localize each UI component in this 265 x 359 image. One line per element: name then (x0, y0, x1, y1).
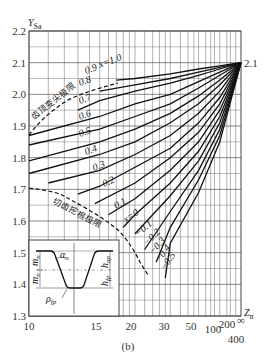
svg-text:30: 30 (159, 320, 171, 332)
svg-text:50: 50 (186, 320, 198, 332)
svg-text:1.7: 1.7 (12, 183, 26, 195)
svg-text:2.1: 2.1 (12, 57, 26, 69)
convergence-label: 2.1 (244, 57, 258, 69)
x-axis-title: Zn (244, 307, 254, 321)
svg-text:2.2: 2.2 (12, 25, 26, 37)
svg-text:0.7: 0.7 (77, 91, 93, 106)
y-tick-labels: 2.2 2.1 2.0 1.9 1.8 1.7 1.6 1.5 1.4 1.3 (12, 25, 26, 322)
svg-text:1.8: 1.8 (12, 152, 26, 164)
svg-text:2.0: 2.0 (12, 88, 26, 100)
chart-svg: 2.2 2.1 2.0 1.9 1.8 1.7 1.6 1.5 1.4 1.3 … (0, 0, 265, 359)
svg-text:0.5: 0.5 (77, 124, 93, 139)
svg-text:0.4: 0.4 (83, 142, 99, 157)
svg-text:200: 200 (219, 318, 236, 330)
svg-text:1.9: 1.9 (12, 120, 26, 132)
y-axis-title: YSa (28, 17, 42, 31)
tip-limit-label: 齿顶变尖极限 (29, 80, 78, 121)
svg-text:10: 10 (24, 320, 36, 332)
svg-text:0.1: 0.1 (112, 195, 128, 211)
svg-text:1.4: 1.4 (12, 278, 26, 290)
svg-text:1.6: 1.6 (12, 215, 26, 227)
svg-text:1.5: 1.5 (12, 247, 26, 259)
svg-text:x=1.0: x=1.0 (96, 51, 123, 70)
svg-text:0.3: 0.3 (91, 158, 107, 173)
figure-caption: (b) (122, 340, 135, 353)
svg-text:0.2: 0.2 (100, 174, 116, 189)
svg-text:400: 400 (228, 333, 245, 345)
svg-text:20: 20 (126, 320, 138, 332)
svg-text:15: 15 (91, 320, 103, 332)
svg-text:0.8: 0.8 (77, 73, 93, 88)
undercut-limit-label: 切齿挖根极限 (51, 196, 103, 230)
